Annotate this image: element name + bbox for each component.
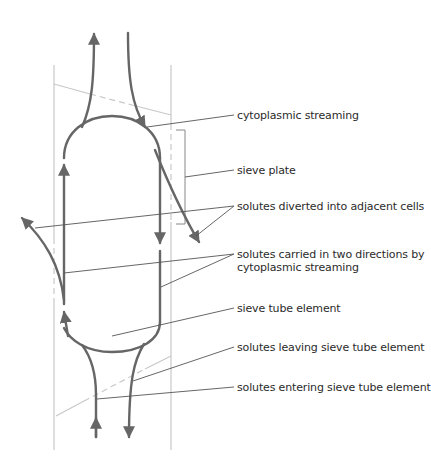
label-cytoplasmic-streaming: cytoplasmic streaming bbox=[237, 109, 359, 122]
solutes-entering-top-arrow bbox=[128, 33, 145, 127]
flow-arrows bbox=[22, 33, 199, 437]
loop-top-arc bbox=[64, 116, 160, 158]
leader-diverted-right bbox=[196, 206, 234, 236]
leader-cytoplasmic-streaming bbox=[147, 115, 234, 127]
label-sieve-plate: sieve plate bbox=[237, 164, 296, 177]
label-solutes-diverted: solutes diverted into adjacent cells bbox=[237, 200, 424, 213]
leader-carried-left bbox=[64, 254, 234, 273]
solutes-leaving-top-arrow bbox=[82, 34, 94, 127]
leader-solutes-leaving bbox=[133, 347, 234, 381]
label-solutes-carried-line2: cytoplasmic streaming bbox=[237, 261, 359, 274]
top-plate-dashed bbox=[90, 94, 132, 105]
loop-bottom-arc bbox=[64, 322, 160, 352]
top-plate-left bbox=[54, 84, 90, 94]
label-sieve-tube-element: sieve tube element bbox=[237, 302, 341, 315]
label-solutes-leaving: solutes leaving sieve tube element bbox=[237, 341, 425, 354]
solutes-leaving-bottom-arrow bbox=[129, 344, 144, 437]
leader-sieve-tube-element bbox=[112, 308, 234, 336]
label-solutes-carried-line1: solutes carried in two directions by bbox=[237, 248, 424, 261]
bottom-plate-right bbox=[145, 356, 171, 369]
leader-solutes-entering bbox=[97, 387, 234, 399]
label-solutes-entering: solutes entering sieve tube element bbox=[237, 381, 431, 394]
cell-walls bbox=[54, 65, 171, 450]
leader-sieve-plate bbox=[185, 170, 234, 177]
diverted-right-arrow bbox=[155, 150, 199, 242]
leader-carried-right bbox=[161, 254, 234, 287]
diverted-left-arrow bbox=[22, 218, 64, 300]
solutes-entering-bottom-arrow bbox=[82, 345, 96, 437]
bottom-plate-left bbox=[56, 401, 84, 416]
